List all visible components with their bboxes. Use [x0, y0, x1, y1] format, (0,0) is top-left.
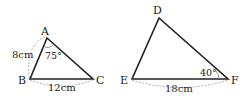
diagram: A B C 8cm 12cm 75° D E F 18cm 40° [0, 0, 250, 97]
vertex-e-label: E [120, 74, 128, 87]
angle-a-arc [44, 44, 54, 48]
side-ef-length: 18cm [165, 83, 193, 94]
side-ab-length: 8cm [12, 49, 34, 60]
vertex-a-label: A [40, 25, 50, 38]
triangle-def: D E F 18cm 40° [120, 4, 239, 94]
triangle-abc: A B C 8cm 12cm 75° [12, 25, 104, 93]
angle-a-value: 75° [45, 50, 62, 61]
vertex-b-label: B [18, 74, 26, 87]
vertex-d-label: D [153, 4, 162, 17]
vertex-f-label: F [231, 74, 239, 87]
angle-f-value: 40° [200, 67, 217, 78]
vertex-c-label: C [96, 74, 104, 87]
side-bc-length: 12cm [48, 82, 76, 93]
